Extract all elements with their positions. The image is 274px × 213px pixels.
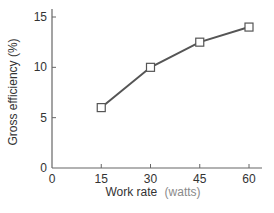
data-point-marker [196, 38, 204, 46]
data-point-marker [147, 63, 155, 71]
x-axis-label-text: Work rate [105, 185, 157, 199]
x-axis-label: Work rate (watts) [105, 185, 200, 199]
x-tick-label: 60 [242, 172, 256, 186]
y-tick-label: 10 [34, 60, 48, 74]
data-series [97, 23, 253, 112]
y-tick-label: 5 [40, 111, 47, 125]
ticks: 051015015304560 [34, 10, 256, 186]
x-tick-label: 15 [95, 172, 109, 186]
data-point-marker [245, 23, 253, 31]
line-chart: 051015015304560 Gross efficiency (%) Wor… [0, 0, 274, 213]
x-tick-label: 45 [193, 172, 207, 186]
series-line [101, 27, 249, 108]
x-axis-label-unit: (watts) [165, 185, 201, 199]
data-point-marker [97, 104, 105, 112]
x-tick-label: 0 [49, 172, 56, 186]
y-axis-label: Gross efficiency (%) [6, 38, 20, 145]
y-tick-label: 0 [40, 161, 47, 175]
x-tick-label: 30 [144, 172, 158, 186]
y-tick-label: 15 [34, 10, 48, 24]
